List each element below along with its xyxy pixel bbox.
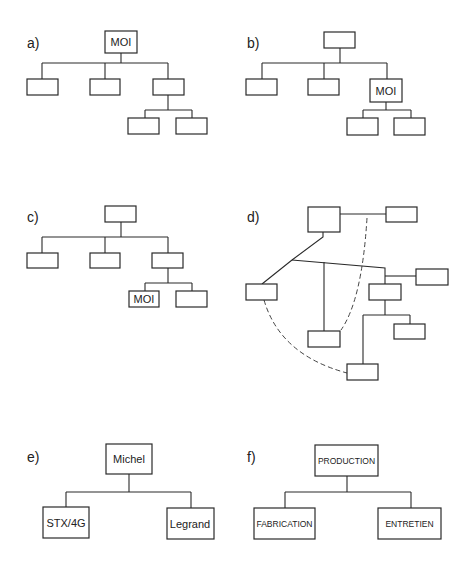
- connector-c-level2: [145, 268, 192, 291]
- node-d-far-right: [416, 269, 448, 285]
- diagram-a: a) MOI: [27, 31, 207, 134]
- node-c-child-2: [90, 253, 120, 268]
- node-a-child-1: [27, 79, 58, 95]
- node-b-child-1: [246, 79, 277, 95]
- node-b-root: [324, 32, 355, 48]
- connector-a-level2: [145, 95, 192, 118]
- node-d-center-bottom: [308, 331, 340, 347]
- node-d-top-right: [386, 207, 417, 222]
- connector-e: [66, 474, 191, 508]
- node-d-bottom: [347, 364, 378, 380]
- node-a-child-2: [90, 79, 120, 95]
- node-e-root-label: Michel: [113, 453, 145, 465]
- diagram-f: f) PRODUCTION FABRICATION ENTRETIEN: [247, 445, 441, 539]
- diagram-e: e) Michel STX/4G Legrand: [27, 444, 214, 539]
- node-a-root-label: MOI: [111, 36, 132, 48]
- link-d-diagonal: [262, 232, 323, 284]
- link-d-branch: [292, 260, 385, 284]
- diagram-c: c) MOI: [27, 206, 207, 307]
- diagram-c-label: c): [27, 209, 39, 225]
- node-f-child-2-label: ENTRETIEN: [385, 519, 433, 529]
- node-a-grandchild-2: [176, 118, 207, 134]
- node-c-child-3: [152, 253, 183, 268]
- diagram-f-label: f): [247, 449, 256, 465]
- node-d-mid-right: [369, 284, 401, 300]
- node-d-left: [246, 284, 277, 300]
- node-b-child-2: [308, 79, 339, 95]
- node-c-grandchild-1-label: MOI: [134, 293, 155, 305]
- connector-b-level1: [262, 48, 387, 79]
- node-a-grandchild-1: [128, 118, 159, 134]
- connector-f: [285, 476, 411, 508]
- node-c-root: [105, 206, 136, 222]
- node-e-child-1-label: STX/4G: [46, 517, 85, 529]
- diagram-a-label: a): [27, 35, 39, 51]
- diagram-e-label: e): [27, 449, 39, 465]
- diagram-b: b) MOI: [246, 32, 425, 135]
- node-e-child-2-label: Legrand: [170, 518, 210, 530]
- node-f-child-1-label: FABRICATION: [256, 519, 312, 529]
- diagram-d-label: d): [247, 209, 259, 225]
- diagram-b-label: b): [247, 35, 259, 51]
- informal-link-d-1: [341, 218, 367, 330]
- org-charts-figure: a) MOI b) MOI c) MOI d): [0, 0, 470, 573]
- node-f-root-label: PRODUCTION: [318, 456, 375, 466]
- node-b-child-3-label: MOI: [376, 85, 397, 97]
- node-d-main: [308, 207, 340, 232]
- diagram-d: d): [246, 207, 448, 380]
- connector-a-level1: [42, 53, 168, 79]
- node-b-grandchild-1: [347, 118, 378, 135]
- node-d-lower-right: [394, 324, 425, 339]
- node-c-grandchild-2: [176, 291, 207, 307]
- node-a-child-3: [153, 79, 184, 95]
- connector-b-level2: [363, 102, 411, 118]
- node-b-grandchild-2: [394, 118, 425, 135]
- node-c-child-1: [27, 253, 58, 268]
- connector-c-level1: [42, 222, 168, 253]
